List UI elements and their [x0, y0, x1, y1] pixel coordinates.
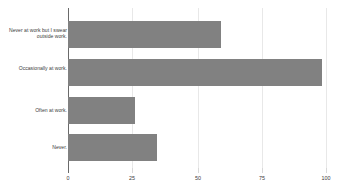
bar-3 — [68, 134, 157, 161]
gridline-75 — [262, 8, 263, 172]
y-axis-label-3: Never. — [3, 144, 67, 150]
x-axis-tick-100: 100 — [311, 175, 339, 181]
x-tickmark-25 — [132, 168, 133, 173]
y-axis-label-2: Often at work. — [3, 107, 67, 113]
x-tickmark-50 — [198, 168, 199, 173]
x-axis-tick-25: 25 — [117, 175, 147, 181]
x-axis-tick-75: 75 — [247, 175, 277, 181]
x-tickmark-75 — [262, 168, 263, 173]
bar-1 — [68, 59, 322, 86]
y-axis-label-1: Occasionally at work. — [3, 65, 67, 71]
x-axis-tick-50: 50 — [183, 175, 213, 181]
bar-2 — [68, 97, 135, 124]
y-axis-label-0: Never at work but I swear outside work. — [3, 27, 67, 40]
bar-chart: Never at work but I swear outside work. … — [0, 0, 339, 192]
gridline-100 — [326, 8, 327, 172]
x-tickmark-0 — [68, 166, 69, 173]
x-tickmark-100 — [326, 168, 327, 173]
x-axis-tick-0: 0 — [53, 175, 83, 181]
bar-0 — [68, 21, 221, 48]
plot-area — [68, 8, 327, 172]
